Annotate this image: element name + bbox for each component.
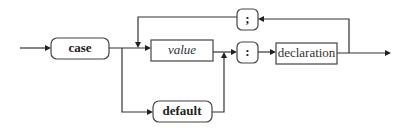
case-terminal: case (51, 38, 109, 59)
default-arrow-icon (147, 109, 153, 115)
entry-arrow-icon (45, 45, 51, 51)
semicolon-label: ; (245, 11, 249, 26)
declaration-nonterminal: declaration (276, 43, 337, 64)
value-arrow-icon (145, 45, 151, 51)
semicolon-terminal: ; (237, 9, 258, 30)
colon-arrow-icon (231, 49, 237, 55)
junction-arrow-icon (221, 52, 227, 58)
default-label: default (163, 103, 203, 118)
exit-arrow-icon (385, 50, 391, 56)
colon-terminal: : (237, 42, 258, 63)
syntax-diagram: case value default ; : declaration (0, 0, 409, 131)
loop-arrow-icon (135, 42, 141, 48)
semicolon-arrow-icon (258, 16, 264, 22)
default-to-colon-line (212, 57, 224, 112)
declaration-label: declaration (278, 45, 336, 60)
case-label: case (68, 40, 91, 55)
value-nonterminal: value (151, 40, 213, 61)
case-to-default-line (122, 48, 148, 112)
semicolon-loop-line (138, 17, 237, 43)
default-terminal: default (153, 101, 212, 122)
value-label: value (168, 42, 196, 57)
declaration-arrow-icon (270, 49, 276, 55)
colon-label: : (245, 44, 249, 59)
